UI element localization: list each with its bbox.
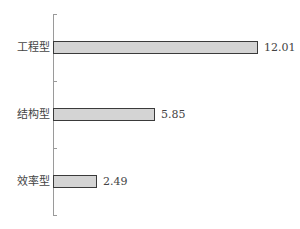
bar-efficiency — [53, 175, 97, 188]
bar-structure — [53, 108, 155, 121]
value-label-engineering: 12.01 — [264, 41, 296, 55]
axis-tick — [53, 215, 57, 216]
axis-tick — [53, 14, 57, 15]
bar-engineering — [53, 41, 258, 54]
value-label-efficiency: 2.49 — [103, 175, 128, 189]
axis-tick — [53, 81, 57, 82]
category-label-engineering: 工程型 — [4, 41, 50, 55]
value-label-structure: 5.85 — [161, 108, 186, 122]
axis-tick — [53, 148, 57, 149]
horizontal-bar-chart: 工程型 12.01 结构型 5.85 效率型 2.49 — [0, 0, 300, 229]
category-label-efficiency: 效率型 — [4, 175, 50, 189]
category-label-structure: 结构型 — [4, 108, 50, 122]
